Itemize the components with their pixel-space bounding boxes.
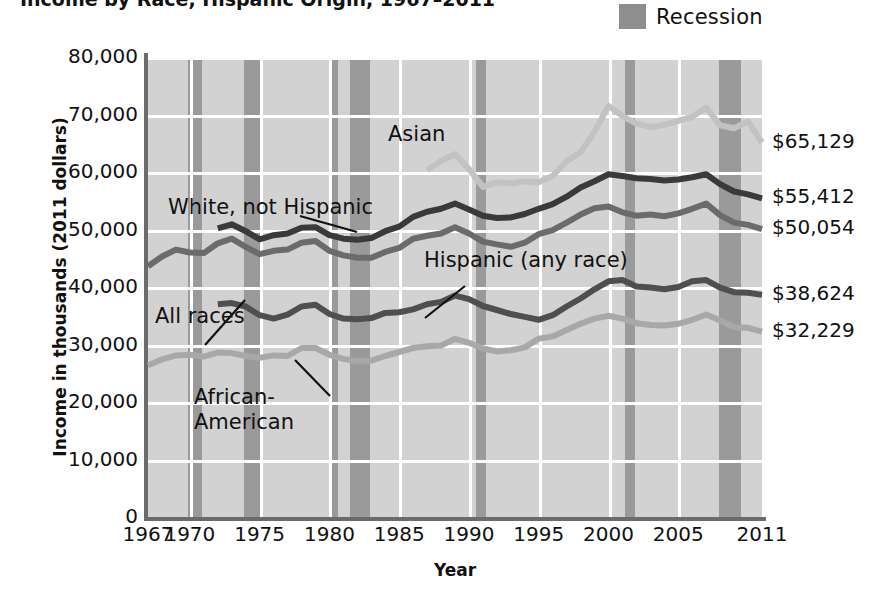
annotation-african-american-line1: African- [194,386,275,409]
end-label-white-not-hispanic: $55,412 [772,184,855,208]
annotation-leader-line [425,286,465,318]
annotation-white-not-hispanic: White, not Hispanic [168,196,373,219]
annotation-leader-line [295,360,330,396]
end-label-hispanic-any-race: $38,624 [772,281,855,305]
leader-lines [0,0,891,608]
end-label-african-american: $32,229 [772,318,855,342]
end-label-asian: $65,129 [772,129,855,153]
annotation-asian: Asian [388,123,445,146]
chart-figure: Income by Race, Hispanic Origin, 1967–20… [0,0,891,608]
end-label-all-races: $50,054 [772,215,855,239]
annotation-african-american-line2: American [194,411,294,434]
annotation-all-races: All races [155,305,245,328]
annotation-hispanic: Hispanic (any race) [424,249,628,272]
